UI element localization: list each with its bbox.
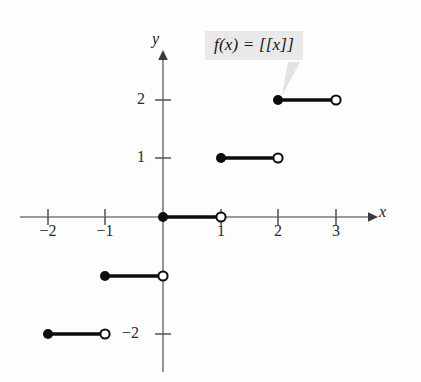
open-endpoint-circle xyxy=(216,212,225,221)
x-tick-label-minus2: −2 xyxy=(33,222,63,240)
callout-leader xyxy=(282,62,300,96)
x-tick-label-minus1: −1 xyxy=(90,222,120,240)
x-tick-label-3: 3 xyxy=(321,222,351,240)
y-axis-label: y xyxy=(152,30,159,48)
x-tick-label-2: 2 xyxy=(263,222,293,240)
x-tick-label-1: 1 xyxy=(206,222,236,240)
step-segment-neg2 xyxy=(43,329,110,339)
closed-endpoint-dot xyxy=(100,271,110,281)
open-endpoint-circle xyxy=(100,329,109,338)
step-segment-1 xyxy=(216,153,283,163)
y-tick-label-minus2: −2 xyxy=(113,324,139,342)
x-axis-label: x xyxy=(379,203,386,221)
open-endpoint-circle xyxy=(331,95,340,104)
open-endpoint-circle xyxy=(158,271,167,280)
step-segment-0 xyxy=(158,212,226,222)
y-tick-label-1: 1 xyxy=(119,148,145,166)
closed-endpoint-dot xyxy=(158,212,168,222)
open-endpoint-circle xyxy=(273,153,282,162)
closed-endpoint-dot xyxy=(43,329,53,339)
callout-function-name: f(x) = [[x]] xyxy=(214,35,294,54)
x-axis-arrowhead xyxy=(368,212,378,222)
function-callout: f(x) = [[x]] xyxy=(205,31,303,60)
closed-endpoint-dot xyxy=(216,153,226,163)
step-segment-2 xyxy=(273,95,341,105)
floor-function-figure: y x −2 −1 1 2 3 2 1 −2 f(x) = [[x]] xyxy=(0,0,421,382)
y-tick-label-2: 2 xyxy=(119,90,145,108)
step-segment-neg1 xyxy=(100,271,168,281)
y-axis-arrowhead xyxy=(158,50,168,60)
closed-endpoint-dot xyxy=(273,95,283,105)
